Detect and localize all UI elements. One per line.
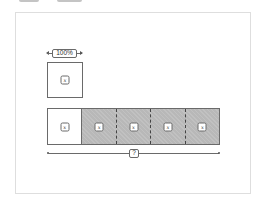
endpoint-right-icon [218, 152, 220, 154]
diagram-frame [15, 12, 251, 194]
variable-label: x [60, 122, 69, 131]
bar-segment-shaded: x [116, 109, 150, 144]
unit-block: x [47, 62, 83, 98]
percent-label: 100% [52, 49, 77, 58]
top-tab-2[interactable] [57, 0, 82, 2]
variable-label: x [129, 122, 138, 131]
variable-label: x [95, 122, 104, 131]
variable-label: x [61, 76, 70, 85]
variable-label: x [163, 122, 172, 131]
arrow-right-icon [80, 51, 83, 55]
top-tab-1[interactable] [19, 0, 39, 2]
variable-label: x [198, 122, 207, 131]
bar-segment-unshaded: x [48, 109, 81, 144]
tape-bar: x x x x x [47, 108, 220, 145]
bar-segment-shaded: x [150, 109, 184, 144]
bar-segment-shaded: x [185, 109, 219, 144]
unknown-total-label: ? [129, 149, 139, 158]
bar-segment-shaded: x [81, 109, 115, 144]
